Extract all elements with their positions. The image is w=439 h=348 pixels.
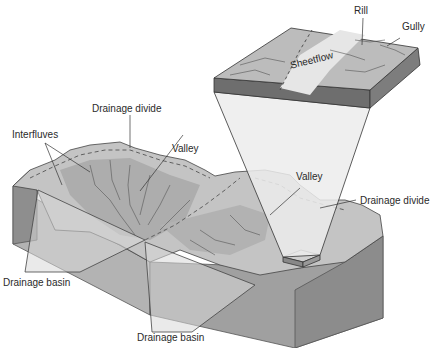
label-rill: Rill [354,5,368,17]
drainage-diagram [0,0,439,348]
label-interfluves: Interfluves [12,129,58,141]
label-valley-left: Valley [172,143,199,155]
label-gully: Gully [402,21,425,33]
label-drainage-basin-bottom: Drainage basin [137,332,204,344]
label-drainage-divide-right: Drainage divide [360,195,430,207]
label-valley-right: Valley [296,171,323,183]
label-drainage-basin-left: Drainage basin [3,277,70,289]
label-drainage-divide-top: Drainage divide [92,103,162,115]
